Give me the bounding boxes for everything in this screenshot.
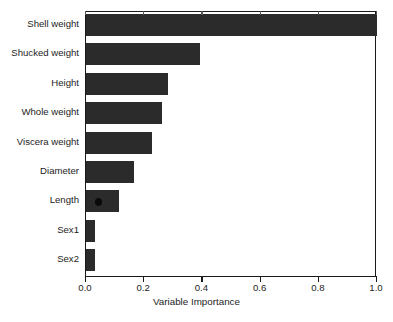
x-axis-tick-label: 0.8	[298, 283, 338, 293]
bar	[86, 249, 95, 271]
bar-row	[86, 14, 377, 36]
y-axis-tick-label: Sex1	[0, 225, 79, 235]
y-axis-labels: Shell weightShucked weightHeightWhole we…	[0, 0, 80, 322]
x-axis-tick-label: 0.6	[240, 283, 280, 293]
y-axis-tick-label: Sex2	[0, 254, 79, 264]
bar-row	[86, 102, 377, 124]
bar	[86, 14, 377, 36]
bar-row	[86, 249, 377, 271]
y-axis-tick-label: Diameter	[0, 166, 79, 176]
bar	[86, 132, 152, 154]
x-axis-tick-mark-top	[376, 11, 377, 15]
x-axis-tick-mark-top	[201, 11, 202, 15]
plot-area	[85, 11, 376, 277]
y-axis-tick-label: Height	[0, 78, 79, 88]
y-axis-tick-label: Shell weight	[0, 19, 79, 29]
x-axis-tick-label: 0.0	[65, 283, 105, 293]
bar	[86, 220, 95, 242]
bar	[86, 161, 134, 183]
x-axis-tick-mark-top	[143, 11, 144, 15]
bar	[86, 190, 119, 212]
y-axis-tick-label: Whole weight	[0, 107, 79, 117]
x-axis-tick-mark-top	[260, 11, 261, 15]
x-axis-line	[85, 276, 377, 277]
y-axis-tick-label: Viscera weight	[0, 137, 79, 147]
x-axis-tick-label: 0.4	[181, 283, 221, 293]
bar	[86, 102, 162, 124]
bar-row	[86, 220, 377, 242]
bar-row	[86, 190, 377, 212]
x-axis-tick-label: 0.2	[123, 283, 163, 293]
bar-row	[86, 132, 377, 154]
bar-row	[86, 43, 377, 65]
bar-row	[86, 161, 377, 183]
bar	[86, 43, 200, 65]
y-axis-tick-label: Shucked weight	[0, 48, 79, 58]
x-axis-title: Variable Importance	[0, 297, 393, 307]
bar-row	[86, 73, 377, 95]
x-axis-tick-label: 1.0	[356, 283, 393, 293]
x-axis-tick-mark-top	[318, 11, 319, 15]
bar	[86, 73, 168, 95]
x-axis-tick-mark-top	[85, 11, 86, 15]
variable-importance-chart: Shell weightShucked weightHeightWhole we…	[0, 0, 393, 322]
y-axis-tick-label: Length	[0, 195, 79, 205]
